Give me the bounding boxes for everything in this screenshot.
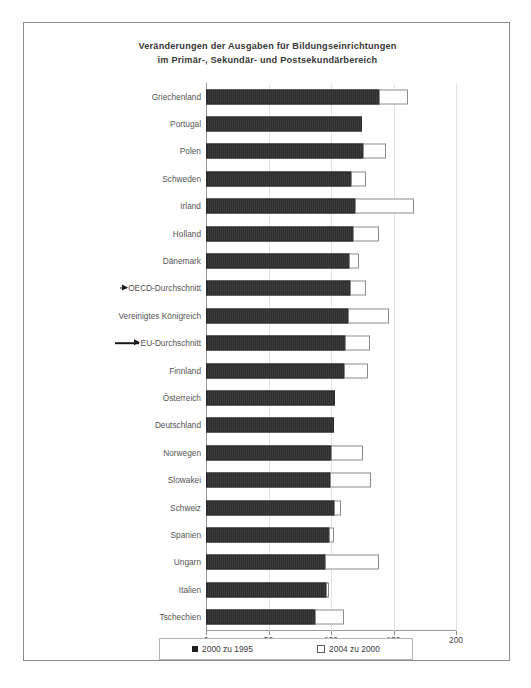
bar-row: Norwegen [206,439,456,466]
bar-segment-2004-zu-2000 [363,144,387,159]
highlight-arrow-icon [115,342,139,344]
bar-segment-2004-zu-2000 [353,226,379,241]
bar-row: Dänemark [206,247,456,274]
bar-row: Deutschland [206,412,456,439]
category-label-eu-durchschnitt: EU-Durchschnitt [141,338,201,348]
category-label--sterreich: Österreich [163,393,201,403]
bar-row: OECD-Durchschnitt [206,275,456,302]
chart-title-line-2: im Primär-, Sekundär- und Postsekundärbe… [24,53,511,67]
category-label-portugal: Portugal [170,119,201,129]
bar-segment-2004-zu-2000 [334,500,342,515]
bar-segment-2000-zu-1995 [206,418,334,433]
chart-frame: Veränderungen der Ausgaben für Bildungse… [23,22,510,661]
category-label-irland: Irland [180,201,201,211]
bar-segment-2000-zu-1995 [206,89,380,104]
legend-label-0: 2000 zu 1995 [202,644,253,654]
bar-row: Finnland [206,357,456,384]
bar-segment-2004-zu-2000 [348,308,389,323]
stacked-bar [206,144,386,159]
bar-segment-2000-zu-1995 [206,226,354,241]
stacked-bar [206,582,329,597]
category-label-vereinigtes-k-nigreich: Vereinigtes Königreich [118,311,201,321]
bar-segment-2000-zu-1995 [206,308,349,323]
category-label-deutschland: Deutschland [155,420,201,430]
stacked-bar [206,391,335,406]
category-label-holland: Holland [173,229,201,239]
bar-segment-2004-zu-2000 [331,445,362,460]
bar-segment-2004-zu-2000 [355,199,414,214]
bar-row: Griechenland [206,83,456,110]
bar-row: Slowakei [206,467,456,494]
stacked-bar [206,226,379,241]
bar-segment-2004-zu-2000 [330,473,371,488]
stacked-bar [206,336,370,351]
bar-segment-2004-zu-2000 [315,610,344,625]
x-tick-label-200: 200 [449,635,463,645]
stacked-bar [206,281,366,296]
stacked-bar [206,89,408,104]
bar-segment-2004-zu-2000 [326,582,329,597]
category-label-italien: Italien [179,585,201,595]
stacked-bar [206,308,389,323]
category-label-polen: Polen [180,146,201,156]
legend-item-0: 2000 zu 1995 [192,644,253,654]
category-label-d-nemark: Dänemark [163,256,201,266]
bar-segment-2000-zu-1995 [206,473,331,488]
bar-segment-2000-zu-1995 [206,610,316,625]
stacked-bar [206,528,334,543]
bar-segment-2000-zu-1995 [206,336,346,351]
bar-row: Schweiz [206,494,456,521]
bar-segment-2000-zu-1995 [206,555,326,570]
category-label-finnland: Finnland [169,366,201,376]
stacked-bar [206,418,334,433]
legend-swatch-dark-icon [192,646,198,652]
bar-segment-2000-zu-1995 [206,254,350,269]
bar-segment-2000-zu-1995 [206,500,335,515]
bar-row: Österreich [206,384,456,411]
bar-segment-2000-zu-1995 [206,582,327,597]
bar-row: Spanien [206,521,456,548]
stacked-bar [206,363,368,378]
category-label-spanien: Spanien [171,530,201,540]
category-label-griechenland: Griechenland [152,92,201,102]
plot-area: GriechenlandPortugalPolenSchwedenIrlandH… [206,83,456,631]
category-label-norwegen: Norwegen [163,448,201,458]
bar-segment-2004-zu-2000 [345,336,370,351]
bar-row: Portugal [206,110,456,137]
legend-item-1: 2004 zu 2000 [317,644,380,654]
stacked-bar [206,555,379,570]
bar-segment-2004-zu-2000 [325,555,379,570]
stacked-bar [206,171,366,186]
stacked-bar [206,473,371,488]
bar-row: Vereinigtes Königreich [206,302,456,329]
bar-segment-2000-zu-1995 [206,391,335,406]
bar-segment-2000-zu-1995 [206,171,352,186]
category-label-schweiz: Schweiz [170,503,201,513]
bar-row: Schweden [206,165,456,192]
bar-segment-2000-zu-1995 [206,117,362,132]
bar-segment-2000-zu-1995 [206,281,351,296]
stacked-bar [206,117,362,132]
gridline-200 [456,83,457,631]
chart-legend: 2000 zu 1995 2004 zu 2000 [159,638,413,660]
bar-segment-2004-zu-2000 [351,171,366,186]
bar-segment-2004-zu-2000 [329,528,334,543]
bar-row: EU-Durchschnitt [206,330,456,357]
category-label-oecd-durchschnitt: OECD-Durchschnitt [128,283,201,293]
category-label-slowakei: Slowakei [168,475,201,485]
bar-segment-2000-zu-1995 [206,363,345,378]
bar-segment-2004-zu-2000 [344,363,368,378]
stacked-bar [206,445,363,460]
bar-row: Holland [206,220,456,247]
category-label-tschechien: Tschechien [159,612,201,622]
category-label-schweden: Schweden [162,174,201,184]
chart-title-line-1: Veränderungen der Ausgaben für Bildungse… [24,39,511,53]
stacked-bar [206,500,341,515]
legend-swatch-light-icon [317,645,325,653]
bar-segment-2004-zu-2000 [349,254,359,269]
stacked-bar [206,199,414,214]
bar-segment-2000-zu-1995 [206,199,356,214]
legend-label-1: 2004 zu 2000 [329,644,380,654]
category-label-ungarn: Ungarn [174,557,201,567]
bar-segment-2000-zu-1995 [206,445,332,460]
